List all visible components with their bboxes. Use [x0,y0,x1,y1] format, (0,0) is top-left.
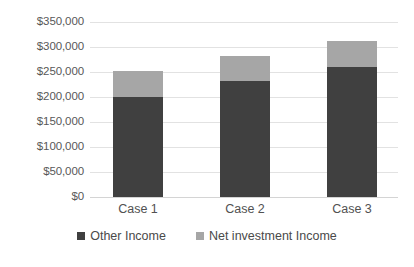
y-axis-tick-label: $0 [0,191,84,203]
x-axis-tick-label: Case 1 [93,203,183,216]
y-axis-labels: $350,000$300,000$250,000$200,000$150,000… [0,0,86,267]
y-axis-tick-label: $200,000 [0,91,84,103]
chart-legend: Other IncomeNet investment Income [0,230,414,243]
bar-segment[interactable] [220,81,270,197]
bar-segment[interactable] [327,41,377,67]
y-axis-tick-label: $50,000 [0,166,84,178]
bar-segment[interactable] [327,67,377,197]
y-axis-tick-label: $150,000 [0,116,84,128]
legend-label: Net investment Income [209,230,337,243]
bar-segment[interactable] [220,56,270,81]
legend-item[interactable]: Other Income [77,230,166,243]
bar-group[interactable] [113,22,163,197]
legend-item[interactable]: Net investment Income [196,230,337,243]
bar-group[interactable] [220,22,270,197]
y-axis-tick-label: $100,000 [0,141,84,153]
gridline [90,197,398,198]
y-axis-tick-label: $250,000 [0,66,84,78]
legend-swatch-icon [196,232,204,240]
x-axis-tick-label: Case 3 [307,203,397,216]
legend-label: Other Income [90,230,166,243]
bar-segment[interactable] [113,71,163,97]
bar-group[interactable] [327,22,377,197]
bar-segment[interactable] [113,97,163,197]
y-axis-tick-label: $300,000 [0,41,84,53]
plot-area [90,22,398,197]
x-axis-tick-label: Case 2 [200,203,290,216]
legend-swatch-icon [77,232,85,240]
y-axis-tick-label: $350,000 [0,16,84,28]
stacked-bar-chart: $350,000$300,000$250,000$200,000$150,000… [0,0,414,267]
